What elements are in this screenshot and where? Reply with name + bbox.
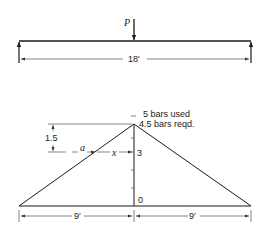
height-dimension: 1.5 bbox=[45, 124, 132, 152]
a-x-dimension: a x bbox=[72, 142, 132, 158]
half-span-dimensions: 9′ 9′ bbox=[19, 210, 251, 222]
tick-0-label: 0 bbox=[138, 195, 143, 205]
moment-diagram: 5 bars used 4.5 bars reqd. 3 0 1.5 a x bbox=[19, 109, 251, 222]
span-label: 18′ bbox=[128, 54, 140, 64]
bars-used-label: 5 bars used bbox=[143, 109, 190, 119]
beam-sketch: P 18′ bbox=[19, 17, 251, 64]
right-slope-line bbox=[134, 124, 251, 206]
bars-reqd-label: 4.5 bars reqd. bbox=[139, 119, 195, 129]
span-dimension: 18′ bbox=[21, 54, 249, 64]
x-label: x bbox=[111, 147, 117, 158]
right-span-label: 9′ bbox=[189, 211, 196, 221]
tick-3-label: 3 bbox=[137, 148, 142, 158]
load-label: P bbox=[123, 17, 130, 28]
beam-diagram-figure: P 18′ 5 bars used 4.5 bars reqd. 3 bbox=[0, 0, 274, 234]
height-dim-label: 1.5 bbox=[45, 133, 58, 143]
a-label: a bbox=[80, 142, 85, 153]
left-span-label: 9′ bbox=[74, 211, 81, 221]
left-slope-line bbox=[19, 124, 134, 206]
